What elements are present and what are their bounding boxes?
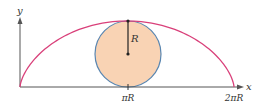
top-point: [126, 19, 129, 22]
tick-label-2pi-r: 2πR: [224, 93, 244, 103]
center-point: [126, 52, 129, 55]
x-axis-arrow-icon: [237, 85, 244, 90]
radius-label: R: [130, 33, 139, 44]
tick-label-pi-r: πR: [121, 93, 135, 103]
x-axis-label: x: [246, 81, 252, 92]
y-axis-label: y: [16, 5, 23, 16]
y-axis-arrow-icon: [18, 17, 23, 24]
cycloid-diagram: y x R πR 2πR: [0, 0, 273, 108]
